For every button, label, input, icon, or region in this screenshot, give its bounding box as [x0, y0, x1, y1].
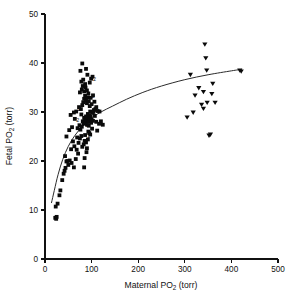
data-point-square [60, 178, 64, 182]
data-point-square [83, 133, 87, 137]
y-tick-label-0: 0 [33, 255, 38, 264]
data-point-square [91, 119, 95, 123]
data-point-square [66, 163, 70, 167]
data-point-square [88, 81, 92, 85]
data-point-square [85, 150, 89, 154]
data-point-square [72, 144, 76, 148]
data-point-square [77, 141, 81, 145]
duplicate-count-label: 2 [86, 122, 89, 128]
duplicate-count-label: 2 [78, 106, 81, 112]
data-point-triangle [188, 73, 193, 77]
data-point-triangle [199, 103, 204, 107]
data-point-triangle [196, 86, 201, 90]
data-point-square [95, 129, 99, 133]
y-tick-label-10: 10 [29, 206, 39, 215]
series-oxygen-breathing [185, 42, 244, 137]
data-point-square [86, 91, 90, 95]
data-point-square [76, 152, 80, 156]
data-point-square [85, 146, 89, 150]
data-point-square [72, 165, 76, 169]
x-tick-label-300: 300 [178, 265, 192, 274]
duplicate-count-label: 2 [93, 76, 96, 82]
data-point-square [63, 154, 67, 158]
x-tick-label-0: 0 [43, 265, 48, 274]
data-point-square [70, 161, 74, 165]
data-point-square [58, 193, 62, 197]
data-point-square [72, 111, 76, 115]
data-point-triangle [212, 101, 217, 105]
data-point-square [71, 140, 75, 144]
y-tick-label-50: 50 [29, 10, 39, 19]
data-point-square [75, 136, 79, 140]
data-point-square [69, 113, 73, 117]
data-point-triangle [201, 90, 206, 94]
data-point-square [99, 119, 103, 123]
data-point-triangle [192, 93, 197, 97]
data-point-triangle [201, 107, 206, 111]
data-point-square [79, 69, 83, 73]
data-point-square [65, 135, 69, 139]
axis-tick-labels: 010203040500100200300400500 [29, 10, 285, 274]
data-point-square [86, 73, 90, 77]
y-tick-label-30: 30 [29, 108, 39, 117]
duplicate-count-label: 2 [87, 133, 90, 139]
duplicate-count-label: 2 [92, 93, 95, 99]
data-point-square [81, 78, 85, 82]
y-tick-label-40: 40 [29, 59, 39, 68]
data-point-triangle [210, 82, 215, 86]
data-point-square [55, 215, 59, 219]
duplicate-count-label: 2 [95, 107, 98, 113]
data-point-square [90, 127, 94, 131]
data-point-square [67, 128, 71, 132]
duplicate-count-label: 2 [76, 117, 79, 123]
data-point-square [74, 157, 78, 161]
y-tick-label-20: 20 [29, 157, 39, 166]
data-point-triangle [204, 68, 209, 72]
data-point-triangle [205, 101, 210, 105]
x-axis-title: Maternal PO2 (torr) [125, 280, 198, 291]
x-tick-label-100: 100 [85, 265, 99, 274]
data-point-triangle [202, 42, 207, 46]
data-point-square [84, 67, 88, 71]
svg-text:Fetal PO2 (torr): Fetal PO2 (torr) [4, 107, 15, 166]
data-point-square [79, 134, 83, 138]
data-point-triangle [185, 115, 190, 119]
data-point-square [56, 202, 60, 206]
data-point-triangle [203, 56, 208, 60]
data-point-square [82, 165, 86, 169]
data-point-square [93, 114, 97, 118]
y-axis-title: Fetal PO2 (torr) [4, 107, 15, 166]
data-point-square [80, 62, 84, 66]
data-point-square [79, 113, 83, 117]
data-point-square [75, 148, 79, 152]
data-point-square [83, 82, 87, 86]
data-points [53, 42, 243, 220]
scatter-plot: 010203040500100200300400500 2222222 Mate… [0, 0, 294, 293]
data-point-square [101, 123, 105, 127]
x-tick-label-400: 400 [225, 265, 239, 274]
data-point-triangle [209, 92, 214, 96]
data-point-square [93, 100, 97, 104]
x-tick-label-200: 200 [131, 265, 145, 274]
data-point-square [58, 189, 62, 193]
x-tick-label-500: 500 [271, 265, 285, 274]
chart-page: 010203040500100200300400500 2222222 Mate… [0, 0, 294, 293]
data-point-square [83, 156, 87, 160]
data-point-square [69, 147, 73, 151]
series-air-breathing [53, 62, 104, 221]
data-point-triangle [191, 111, 196, 115]
